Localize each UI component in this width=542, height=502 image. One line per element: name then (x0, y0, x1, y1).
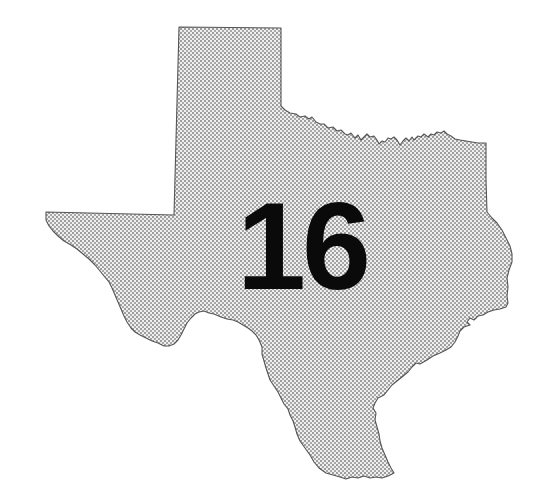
region-number-label: 16 (237, 177, 367, 315)
texas-map: 16 (0, 0, 542, 502)
